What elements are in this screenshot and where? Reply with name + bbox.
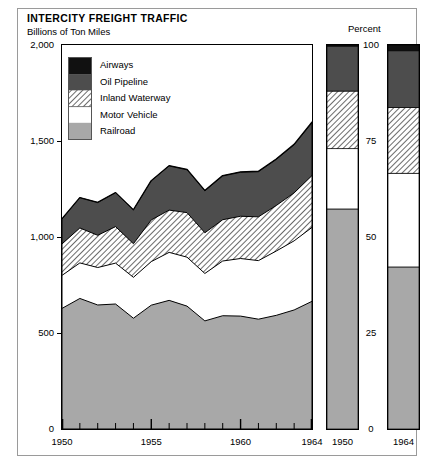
x-axis-tick-label: 1955 [129, 436, 173, 447]
percent-bar-label-1964: 1964 [382, 436, 426, 447]
legend-item-waterway: Inland Waterway [100, 90, 170, 107]
y-axis-tick-label: 2,000 [2, 39, 54, 50]
percent-segment-inland-waterway [327, 91, 358, 149]
percent-bar-1950 [326, 44, 359, 430]
legend-swatch-waterway [69, 90, 91, 107]
chart-figure: INTERCITY FREIGHT TRAFFIC Billions of To… [0, 0, 434, 467]
main-plot-area [61, 44, 313, 430]
page-title: INTERCITY FREIGHT TRAFFIC [27, 12, 188, 24]
legend-swatch-railroad [69, 123, 91, 139]
x-axis-tick-label: 1960 [219, 436, 263, 447]
y-axis-tick-label: 1,500 [2, 135, 54, 146]
percent-segment-railroad [327, 209, 358, 429]
percent-axis-tick-label: 50 [356, 231, 386, 242]
percent-segment-oil-pipeline [388, 51, 419, 108]
percent-bar-label-1950: 1950 [321, 436, 365, 447]
y-axis-tick-label: 0 [2, 423, 54, 434]
legend-swatch-oil [69, 74, 91, 91]
legend-label-list: AirwaysOil PipelineInland WaterwayMotor … [100, 57, 170, 140]
x-axis-tick-label: 1950 [40, 436, 84, 447]
legend-swatch-motor [69, 107, 91, 124]
percent-segment-motor-vehicle [327, 149, 358, 209]
legend-item-railroad: Railroad [100, 123, 170, 140]
legend-swatch [68, 57, 92, 140]
percent-axis-tick-label: 0 [356, 423, 386, 434]
percent-segment-airways [327, 45, 358, 46]
percent-segment-airways [388, 45, 419, 51]
percent-bar-1964 [387, 44, 420, 430]
legend-item-motor: Motor Vehicle [100, 107, 170, 124]
y-axis-tick-label: 1,000 [2, 231, 54, 242]
legend-item-airways: Airways [100, 57, 170, 74]
percent-segment-railroad [388, 267, 419, 429]
area-band-railroad [62, 298, 312, 429]
percent-axis-tick-label: 100 [356, 39, 386, 50]
percent-segment-motor-vehicle [388, 173, 419, 267]
percent-segment-oil-pipeline [327, 46, 358, 91]
percent-axis-tick-label: 25 [356, 327, 386, 338]
percent-segment-inland-waterway [388, 108, 419, 174]
percent-axis-tick-label: 75 [356, 135, 386, 146]
percent-axis-title: Percent [348, 23, 381, 34]
chart-subtitle: Billions of Ton Miles [27, 26, 110, 37]
legend-swatch-airways [69, 58, 91, 75]
y-axis-tick-label: 500 [2, 327, 54, 338]
legend-item-oil: Oil Pipeline [100, 74, 170, 91]
